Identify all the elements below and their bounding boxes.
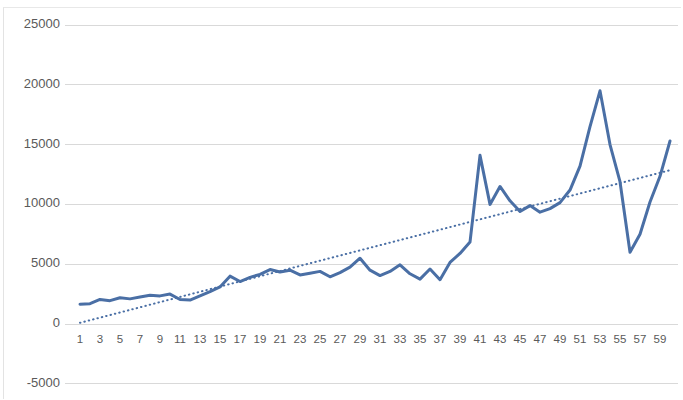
x-tick-label: 13 — [190, 333, 210, 345]
x-tick-label: 45 — [510, 333, 530, 345]
y-tick-label: 0 — [0, 315, 60, 330]
data-series-layer — [80, 91, 670, 323]
x-tick-label: 7 — [130, 333, 150, 345]
plot-area: 2500020000150001000050000-5000 135791113… — [0, 0, 683, 400]
chart-container: 2500020000150001000050000-5000 135791113… — [0, 0, 683, 400]
x-tick-label: 35 — [410, 333, 430, 345]
x-tick-label: 11 — [170, 333, 190, 345]
x-tick-label: 29 — [350, 333, 370, 345]
x-tick-label: 15 — [210, 333, 230, 345]
x-tick-label: 33 — [390, 333, 410, 345]
x-tick-label: 25 — [310, 333, 330, 345]
x-tick-label: 1 — [70, 333, 90, 345]
x-tick-label: 31 — [370, 333, 390, 345]
trendline-path — [80, 170, 670, 323]
x-tick-label: 37 — [430, 333, 450, 345]
x-tick-label: 59 — [650, 333, 670, 345]
x-tick-label: 17 — [230, 333, 250, 345]
x-tick-label: 53 — [590, 333, 610, 345]
x-tick-label: 47 — [530, 333, 550, 345]
x-tick-label: 41 — [470, 333, 490, 345]
x-tick-label: 49 — [550, 333, 570, 345]
gridlines — [65, 25, 678, 384]
y-tick-label: -5000 — [0, 375, 60, 390]
x-tick-label: 51 — [570, 333, 590, 345]
x-tick-label: 23 — [290, 333, 310, 345]
y-tick-label: 20000 — [0, 76, 60, 91]
x-tick-label: 19 — [250, 333, 270, 345]
y-tick-label: 25000 — [0, 16, 60, 31]
x-tick-label: 3 — [90, 333, 110, 345]
x-tick-label: 27 — [330, 333, 350, 345]
x-tick-label: 39 — [450, 333, 470, 345]
y-tick-label: 15000 — [0, 136, 60, 151]
x-tick-label: 57 — [630, 333, 650, 345]
y-tick-label: 5000 — [0, 255, 60, 270]
x-tick-label: 55 — [610, 333, 630, 345]
x-tick-label: 5 — [110, 333, 130, 345]
y-tick-label: 10000 — [0, 195, 60, 210]
data-series-path — [80, 91, 670, 304]
x-tick-label: 43 — [490, 333, 510, 345]
x-tick-label: 21 — [270, 333, 290, 345]
x-tick-label: 9 — [150, 333, 170, 345]
